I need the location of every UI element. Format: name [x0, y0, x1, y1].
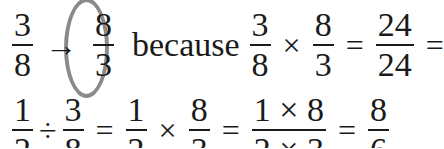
numerator: 8 — [368, 93, 389, 127]
fraction: 3 8 — [63, 93, 84, 148]
denominator: 3 — [189, 133, 210, 148]
times-sign: × — [283, 27, 301, 64]
denominator: 8 — [63, 133, 84, 148]
denominator: 2 — [12, 133, 33, 148]
numerator: 8 — [93, 8, 114, 42]
numerator: 1 — [126, 93, 147, 127]
denominator: 6 — [368, 133, 389, 148]
fraction: 1 2 — [12, 93, 33, 148]
fraction: 8 3 — [189, 93, 210, 148]
denominator: 3 — [313, 48, 334, 82]
fraction-product: 1 × 8 2 × 3 — [252, 93, 326, 148]
fraction-three-eighths: 3 8 — [12, 8, 33, 82]
fraction: 3 8 — [250, 8, 271, 82]
fraction: 8 3 — [313, 8, 334, 82]
times-sign: × — [159, 112, 177, 149]
denominator: 8 — [12, 48, 33, 82]
numerator: 8 — [189, 93, 210, 127]
fraction-reciprocal: 8 3 — [93, 8, 114, 82]
arrow-icon: → — [45, 27, 77, 64]
because-text: because — [132, 26, 240, 64]
numerator: 8 — [313, 8, 334, 42]
denominator: 8 — [250, 48, 271, 82]
equation-line-2: 1 2 ÷ 3 8 = 1 2 × 8 3 = 1 × 8 2 × 3 = 8 … — [8, 93, 393, 148]
fraction: 1 2 — [126, 93, 147, 148]
numerator: 24 — [376, 8, 414, 42]
fraction: 24 24 — [376, 8, 414, 82]
numerator: 1 — [12, 93, 33, 127]
equals-sign: = — [338, 112, 356, 149]
denominator: 24 — [376, 48, 414, 82]
numerator: 3 — [63, 93, 84, 127]
numerator: 1 × 8 — [252, 93, 326, 127]
equals-sign: = — [96, 112, 114, 149]
divide-sign: ÷ — [39, 112, 57, 149]
denominator: 2 — [126, 133, 147, 148]
equation-line-1: 3 8 → 8 3 because 3 8 × 8 3 = 24 24 = 1 — [8, 8, 444, 82]
equals-sign: = — [426, 27, 444, 64]
denominator: 3 — [93, 48, 114, 82]
numerator: 3 — [12, 8, 33, 42]
fraction-result: 8 6 — [368, 93, 389, 148]
equals-sign: = — [222, 112, 240, 149]
numerator: 3 — [250, 8, 271, 42]
equals-sign: = — [346, 27, 364, 64]
denominator: 2 × 3 — [252, 133, 326, 148]
